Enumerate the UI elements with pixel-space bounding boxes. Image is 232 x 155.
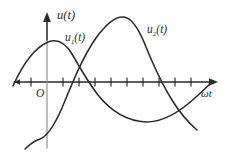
y-axis-arrowhead-icon: [43, 12, 51, 22]
curve-u1-label: u1(t): [65, 32, 85, 46]
x-axis-label: ωt: [201, 88, 212, 99]
curve-u2-label-arg: (t): [156, 23, 167, 35]
y-axis-label: u(t): [57, 9, 75, 22]
curve-u2-label: u2(t): [147, 24, 167, 38]
curve-u1-label-arg: (t): [74, 31, 85, 43]
figure-canvas: [0, 0, 232, 155]
axes-group: [14, 12, 218, 148]
waveform-figure: u(t) u1(t) u2(t) O ωt: [0, 0, 232, 155]
origin-label: O: [36, 88, 44, 100]
